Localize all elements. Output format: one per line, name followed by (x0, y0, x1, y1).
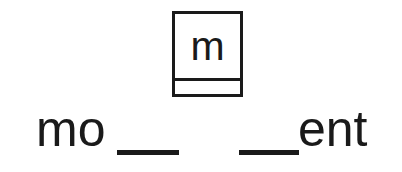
blank-field-1[interactable] (117, 150, 179, 155)
blank-field-2[interactable] (239, 150, 299, 155)
word-exercise-line: mo ent (0, 104, 402, 160)
letter-tile-glyph: m (175, 14, 240, 80)
worksheet-canvas: m mo ent (0, 0, 402, 172)
word-prefix-text: mo (36, 104, 105, 154)
letter-tile-card: m (172, 11, 243, 97)
word-suffix-text: ent (298, 104, 368, 154)
letter-tile-bottom-strip (175, 78, 240, 94)
